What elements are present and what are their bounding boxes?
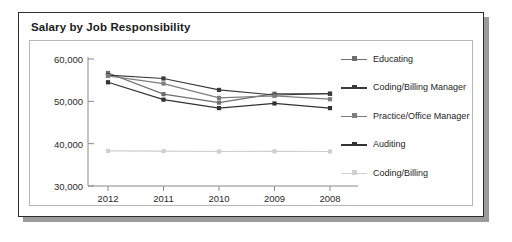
legend-marker-icon	[341, 169, 367, 178]
series-point	[272, 94, 276, 98]
chart-card: Salary by Job Responsibility 30,00040,00…	[18, 12, 484, 217]
legend-label: Auditing	[373, 140, 406, 149]
legend-label: Practice/Office Manager	[373, 112, 469, 121]
series-point	[328, 97, 332, 101]
series-point	[106, 149, 110, 153]
series-point	[161, 98, 165, 102]
series-point	[217, 106, 221, 110]
y-axis-tick-label: 30,000	[54, 181, 83, 192]
legend-marker-icon	[341, 55, 367, 64]
x-axis-tick-label: 2011	[153, 193, 173, 204]
chart-legend: EducatingCoding/Billing ManagerPractice/…	[341, 45, 481, 188]
legend-label: Educating	[373, 55, 413, 64]
series-point	[328, 106, 332, 110]
series-point	[217, 101, 221, 105]
legend-item[interactable]: Coding/Billing	[341, 159, 481, 188]
chart-title: Salary by Job Responsibility	[31, 21, 190, 33]
series-point	[106, 74, 110, 78]
series-point	[161, 149, 165, 153]
legend-marker-icon	[341, 140, 367, 149]
legend-item[interactable]: Coding/Billing Manager	[341, 74, 481, 103]
series-point	[217, 88, 221, 92]
y-axis-tick-label: 60,000	[54, 54, 83, 65]
x-axis-tick-label: 2009	[264, 193, 285, 204]
series-point	[161, 81, 165, 85]
y-axis-tick-label: 50,000	[54, 96, 83, 107]
legend-label: Coding/Billing Manager	[373, 83, 466, 92]
series-point	[161, 92, 165, 96]
series-line	[108, 76, 330, 99]
legend-marker-icon	[341, 83, 367, 92]
x-axis-tick-label: 2008	[319, 193, 340, 204]
series-point	[217, 96, 221, 100]
legend-item[interactable]: Practice/Office Manager	[341, 102, 481, 131]
x-axis-tick-label: 2012	[97, 193, 118, 204]
legend-marker-icon	[341, 112, 367, 121]
series-point	[272, 101, 276, 105]
y-axis-tick-label: 40,000	[54, 139, 83, 150]
series-point	[106, 80, 110, 84]
series-point	[161, 76, 165, 80]
legend-label: Coding/Billing	[373, 169, 428, 178]
legend-item[interactable]: Educating	[341, 45, 481, 74]
series-point	[328, 92, 332, 96]
legend-item[interactable]: Auditing	[341, 131, 481, 160]
series-point	[217, 149, 221, 153]
series-point	[328, 149, 332, 153]
x-axis-tick-label: 2010	[208, 193, 229, 204]
series-point	[272, 149, 276, 153]
